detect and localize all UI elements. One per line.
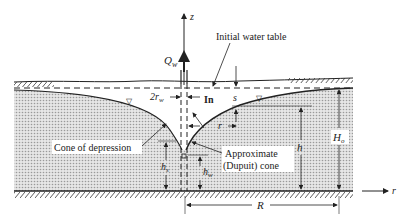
radius-label: r	[218, 120, 222, 131]
drawdown-label: s	[233, 92, 237, 103]
water-table-symbol-right: ▽	[256, 94, 263, 103]
ground-hatch-right	[288, 78, 353, 83]
ground-hatch-left	[14, 82, 54, 87]
base-hatch	[14, 192, 353, 198]
water-table-symbol-left: ▽	[126, 97, 133, 106]
r-axis-label: r	[392, 185, 396, 196]
radius-of-influence-label: R	[256, 199, 264, 211]
cone-of-depression-label: Cone of depression	[54, 142, 131, 153]
initial-water-table-leader	[213, 43, 230, 86]
inflow-label: In	[204, 94, 214, 105]
well-diameter-label: 2rw	[150, 91, 164, 104]
discharge-label: Qw	[164, 54, 178, 69]
initial-water-table-label: Initial water table	[216, 31, 287, 42]
dupuit-cone-label-line1: Approximate	[225, 148, 278, 159]
well-drawdown-diagram: z Qw r Initial water table s ▽ ▽ 2rw In …	[0, 0, 407, 223]
dupuit-cone-label-line2: (Dupuit) cone	[223, 160, 279, 172]
head-label: h	[297, 141, 303, 153]
aquifer-saturated-zone	[14, 88, 353, 191]
z-axis-label: z	[189, 11, 194, 22]
